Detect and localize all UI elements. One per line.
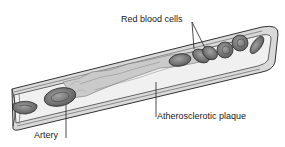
label-atherosclerotic-plaque: Atherosclerotic plaque xyxy=(157,112,246,121)
rbc-6 xyxy=(217,42,233,58)
rbc-7 xyxy=(232,35,248,51)
rbc-left xyxy=(13,101,37,114)
label-artery: Artery xyxy=(34,131,58,140)
label-red-blood-cells: Red blood cells xyxy=(121,15,183,24)
